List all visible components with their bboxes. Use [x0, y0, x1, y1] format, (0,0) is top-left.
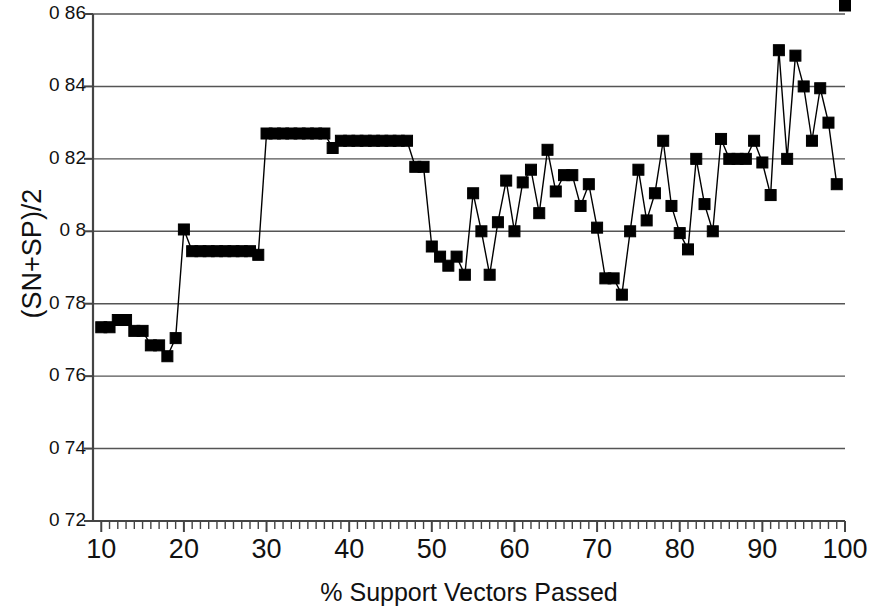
data-series	[96, 0, 851, 362]
x-axis-title: % Support Vectors Passed	[93, 578, 845, 607]
x-tick-label: 80	[635, 534, 725, 565]
data-point	[691, 153, 702, 164]
data-point	[682, 244, 693, 255]
data-point	[418, 161, 429, 172]
data-point	[253, 249, 264, 260]
data-point	[740, 153, 751, 164]
data-point	[716, 133, 727, 144]
data-point	[674, 228, 685, 239]
data-point	[319, 128, 330, 139]
data-point	[534, 208, 545, 219]
data-point	[699, 199, 710, 210]
x-tick-label: 30	[222, 534, 312, 565]
data-point	[625, 226, 636, 237]
data-point	[757, 157, 768, 168]
data-point	[492, 217, 503, 228]
data-point	[815, 83, 826, 94]
data-point	[154, 340, 165, 351]
data-point	[707, 226, 718, 237]
data-point	[840, 0, 851, 11]
data-point	[782, 153, 793, 164]
data-point	[641, 215, 652, 226]
x-tick-label: 90	[717, 534, 807, 565]
data-point	[592, 222, 603, 233]
x-tick-label: 10	[56, 534, 146, 565]
data-point	[459, 269, 470, 280]
data-point	[658, 135, 669, 146]
y-axis-tick-marks	[84, 14, 93, 521]
data-point	[831, 179, 842, 190]
x-tick-label: 50	[387, 534, 477, 565]
data-point	[137, 325, 148, 336]
data-point	[178, 224, 189, 235]
data-point	[583, 179, 594, 190]
data-point	[121, 315, 132, 326]
data-point	[501, 175, 512, 186]
data-point	[608, 273, 619, 284]
x-tick-label: 70	[552, 534, 642, 565]
data-point	[162, 351, 173, 362]
data-point	[806, 135, 817, 146]
data-point	[765, 190, 776, 201]
x-tick-label: 20	[139, 534, 229, 565]
data-point	[170, 333, 181, 344]
data-markers	[96, 0, 851, 362]
x-tick-label: 40	[304, 534, 394, 565]
data-point	[468, 188, 479, 199]
data-point	[666, 200, 677, 211]
data-point	[550, 186, 561, 197]
data-point	[451, 251, 462, 262]
data-point	[616, 289, 627, 300]
data-point	[798, 81, 809, 92]
x-tick-label: 60	[469, 534, 559, 565]
data-point	[426, 241, 437, 252]
data-point	[633, 164, 644, 175]
data-point	[484, 269, 495, 280]
data-point	[542, 144, 553, 155]
data-point	[476, 226, 487, 237]
data-point	[517, 177, 528, 188]
data-point	[575, 200, 586, 211]
data-point	[649, 188, 660, 199]
data-point	[749, 135, 760, 146]
data-point	[773, 45, 784, 56]
data-point	[402, 135, 413, 146]
x-axis-minor-ticks	[101, 521, 845, 532]
data-point	[790, 50, 801, 61]
axis-lines	[93, 14, 845, 521]
x-tick-label: 100	[800, 534, 872, 565]
data-point	[509, 226, 520, 237]
data-point	[525, 164, 536, 175]
data-point	[567, 170, 578, 181]
data-point	[823, 117, 834, 128]
